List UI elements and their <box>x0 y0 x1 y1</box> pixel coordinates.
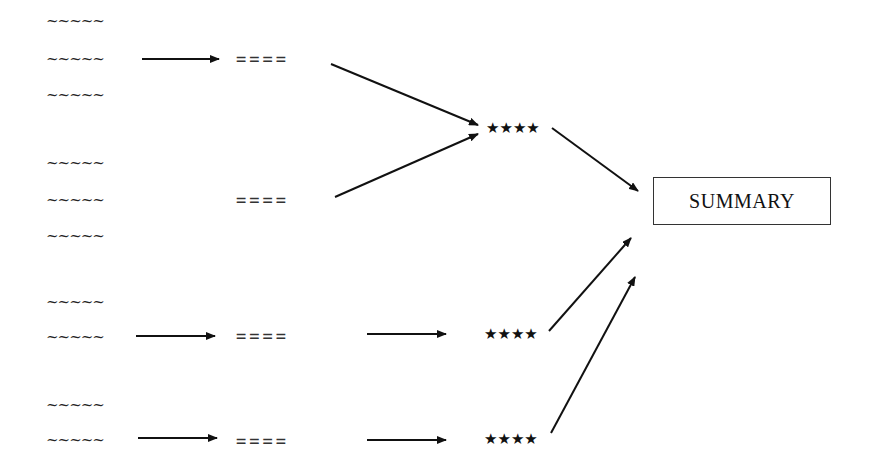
source-line: ~~~~~ <box>46 295 104 310</box>
source-line: ~~~~~ <box>46 229 104 244</box>
source-line: ~~~~~ <box>46 156 104 171</box>
summary-box: SUMMARY <box>653 177 831 225</box>
arrow-stars2-to-summary <box>549 238 631 331</box>
merge-node-stars: ★★★★ <box>486 121 540 136</box>
source-line: ~~~~~ <box>46 330 104 345</box>
source-line: ~~~~~ <box>46 88 104 103</box>
source-line: ~~~~~ <box>46 52 104 67</box>
merge-node-stars: ★★★★ <box>484 432 538 447</box>
arrow-eq1-to-stars1 <box>331 64 478 125</box>
source-line: ~~~~~ <box>46 433 104 448</box>
arrow-stars1-to-summary <box>552 128 638 191</box>
source-line: ~~~~~ <box>46 14 104 29</box>
arrow-eq2-to-stars1 <box>335 134 478 197</box>
intermediate-node: ==== <box>236 433 289 450</box>
source-line: ~~~~~ <box>46 398 104 413</box>
arrows-layer <box>0 0 872 466</box>
merge-node-stars: ★★★★ <box>484 327 538 342</box>
source-line: ~~~~~ <box>46 193 104 208</box>
arrow-stars3-to-summary <box>551 277 635 433</box>
intermediate-node: ==== <box>236 328 289 345</box>
summary-flow-diagram: ~~~~~ ~~~~~ ~~~~~ ==== ~~~~~ ~~~~~ ~~~~~… <box>0 0 872 466</box>
summary-label: SUMMARY <box>689 190 795 213</box>
intermediate-node: ==== <box>236 192 289 209</box>
intermediate-node: ==== <box>236 51 289 68</box>
